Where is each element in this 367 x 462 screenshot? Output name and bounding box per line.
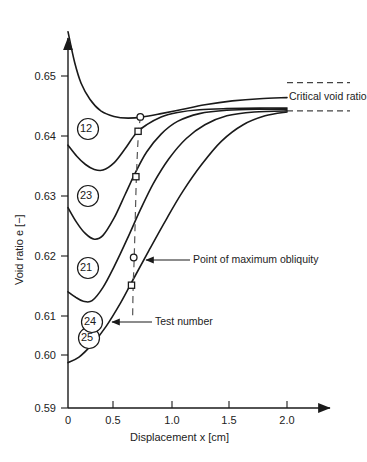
annotation-point-of-maximum-obliquity: Point of maximum obliquity xyxy=(193,254,318,265)
y-axis-ticks xyxy=(61,76,68,408)
curve-test-21 xyxy=(68,109,287,239)
obliquity-marker-test-25 xyxy=(130,254,137,261)
annotation-critical-void-ratio: Critical void ratio xyxy=(289,91,367,102)
x-tick-label-1.5: 1.5 xyxy=(214,415,244,426)
y-tick-label-0.61: 0.61 xyxy=(22,311,56,322)
test-label-24: 24 xyxy=(84,316,96,327)
x-axis-ticks xyxy=(113,401,287,408)
curve-test-12 xyxy=(68,32,287,118)
y-tick-label-0.63: 0.63 xyxy=(22,191,56,202)
x-tick-label-0.5: 0.5 xyxy=(98,415,128,426)
curve-test-23 xyxy=(68,108,287,171)
y-tick-label-0.62: 0.62 xyxy=(22,251,56,262)
curve-test-25 xyxy=(68,111,287,302)
y-axis-title: Void ratio e [−] xyxy=(14,214,25,285)
annotation-test-number: Test number xyxy=(155,316,213,327)
test-label-12: 12 xyxy=(80,123,92,134)
y-tick-label-0.59: 0.59 xyxy=(22,403,56,414)
y-tick-label-0.64: 0.64 xyxy=(22,131,56,142)
y-tick-label-0.60: 0.60 xyxy=(22,350,56,361)
y-tick-label-0.65: 0.65 xyxy=(22,71,56,82)
test-label-23: 23 xyxy=(80,190,92,201)
x-axis-title: Displacement x [cm] xyxy=(130,432,229,443)
x-tick-label-2.0: 2.0 xyxy=(272,415,302,426)
obliquity-marker-test-24 xyxy=(128,282,134,288)
data-curves xyxy=(68,32,287,363)
obliquity-marker-test-12 xyxy=(137,114,144,121)
test-label-25: 25 xyxy=(81,332,93,343)
x-tick-label-1.0: 1.0 xyxy=(157,415,187,426)
test-label-21: 21 xyxy=(80,262,92,273)
x-tick-label-0: 0 xyxy=(53,415,83,426)
obliquity-marker-test-21 xyxy=(133,174,139,180)
obliquity-marker-test-23 xyxy=(135,128,141,134)
